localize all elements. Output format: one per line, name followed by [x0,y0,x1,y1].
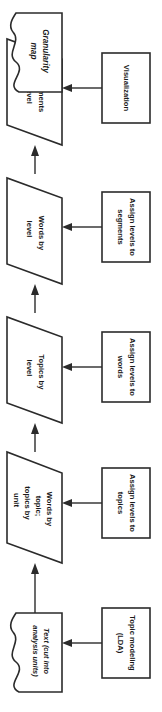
node-granularity-map[interactable]: Granularity map [11,13,62,92]
words-topics-label-line-3: topics by [23,486,32,520]
edge-words-by-level-to-segments-by-level [31,145,39,174]
node-topics-by-level[interactable]: Topics by level [7,317,62,423]
node-assign-levels-topics[interactable]: Assign levels to topics [102,468,150,538]
node-visualization[interactable]: Visualization [102,53,150,123]
words-by-level-label-line-1: Words by [37,216,46,251]
edge-topics-by-level-to-words-by-level [31,284,39,313]
words-topics-label-line-4: unit [12,493,21,507]
edge-assign-levels-segments-to-words-by-level [62,223,102,231]
edge-topic-modeling-to-text-input [62,639,102,647]
words-topics-label-line-2: topic; [34,496,43,517]
topics-by-level-label-line-1: Topics by [37,355,46,391]
node-words-topics[interactable]: Words by topic; topics by unit [7,452,62,563]
assign-levels-topics-label-line-2: topics [116,492,125,514]
node-assign-levels-words[interactable]: Assign levels to words [102,332,150,402]
topics-by-level-label-line-2: level [25,360,34,377]
node-text-input[interactable]: Text (cut into analysis units) [11,613,62,692]
words-by-level-label-line-2: level [25,221,34,238]
text-input-label-line-1: Text (cut into [42,628,51,675]
edge-words-topics-to-topics-by-level [31,423,39,452]
topic-modeling-label-line-2: (LDA) [116,633,125,654]
flowchart-svg: Topic modeling (LDA) Assign levels to to… [0,0,162,712]
words-topics-label-line-1: Words by [45,492,54,527]
node-assign-levels-segments[interactable]: Assign levels to segments [102,192,150,262]
topic-modeling-label-line-1: Topic modeling [128,615,137,671]
diagram-stage: Topic modeling (LDA) Assign levels to to… [0,0,162,712]
edge-assign-levels-words-to-topics-by-level [62,363,102,371]
assign-levels-words-label-line-2: words [116,355,125,378]
assign-levels-segments-label-line-2: segments [116,209,125,244]
visualization-label-line-1: Visualization [122,65,131,112]
assign-levels-topics-label-line-1: Assign levels to [128,474,137,532]
text-input-label-line-2: analysis units) [31,625,40,677]
assign-levels-words-label-line-1: Assign levels to [128,338,137,396]
edge-text-input-to-words-topics [31,563,39,613]
diagram-canvas: Topic modeling (LDA) Assign levels to to… [0,0,162,712]
edge-visualization-to-segments-by-level [62,84,102,92]
edge-assign-levels-topics-to-words-topics [62,499,102,507]
node-topic-modeling[interactable]: Topic modeling (LDA) [102,608,150,678]
node-words-by-level[interactable]: Words by level [7,178,62,284]
granularity-map-label-line-1: Granularity [41,29,50,73]
granularity-map-label-line-2: map [29,43,38,60]
assign-levels-segments-label-line-1: Assign levels to [128,198,137,256]
